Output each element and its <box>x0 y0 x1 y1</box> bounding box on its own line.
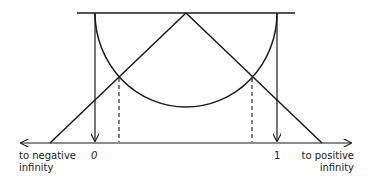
semicircle <box>95 13 277 107</box>
label-pos-line2: infinity <box>298 162 354 174</box>
label-neg-line2: infinity <box>19 162 76 174</box>
left-diagonal <box>50 13 186 143</box>
right-diagonal <box>186 13 322 143</box>
label-one: 1 <box>274 150 280 162</box>
label-neg-line1: to negative <box>19 150 76 162</box>
label-pos-infinity: to positive infinity <box>298 150 354 174</box>
label-neg-infinity: to negative infinity <box>19 150 76 174</box>
label-pos-line1: to positive <box>298 150 354 162</box>
label-zero: 0 <box>91 150 97 162</box>
